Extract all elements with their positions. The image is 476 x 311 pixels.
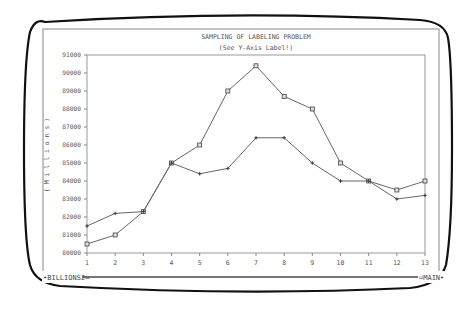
x-tick-label: 10 <box>337 259 345 267</box>
y-tick-label: 82000 <box>62 213 81 220</box>
y-tick-label: 83000 <box>62 195 81 202</box>
y-tick-label: 86000 <box>62 141 81 148</box>
y-axis-label: ( M i l l i o n s ) <box>43 118 51 192</box>
status-right-label: ═MAIN• <box>418 274 444 282</box>
x-tick-label: 4 <box>170 259 174 267</box>
square-marker <box>423 179 427 183</box>
y-tick-label: 91000 <box>62 51 81 58</box>
square-marker <box>226 89 230 93</box>
y-tick-label: 81000 <box>62 231 81 238</box>
square-marker <box>310 107 314 111</box>
x-tick-label: 7 <box>254 259 258 267</box>
x-tick-label: 6 <box>226 259 230 267</box>
series-line-2 <box>87 138 425 226</box>
monitor-bezel <box>24 15 452 291</box>
x-tick-label: 12 <box>393 259 401 267</box>
square-marker <box>113 233 117 237</box>
y-axis: 8000081000820008300084000850008600087000… <box>62 51 87 256</box>
square-marker <box>198 143 202 147</box>
square-marker <box>254 64 258 68</box>
plot-series <box>85 64 427 246</box>
chart-panel-frame <box>43 29 439 277</box>
square-marker <box>282 94 286 98</box>
y-tick-label: 88000 <box>62 105 81 112</box>
square-marker <box>85 242 89 246</box>
square-marker <box>395 188 399 192</box>
y-tick-label: 84000 <box>62 177 81 184</box>
cross-marker <box>113 212 117 216</box>
x-tick-label: 13 <box>421 259 429 267</box>
x-tick-label: 2 <box>113 259 117 267</box>
cross-marker <box>198 172 202 176</box>
cross-marker <box>85 224 89 228</box>
x-axis: 12345678910111213 <box>85 253 429 267</box>
y-tick-label: 85000 <box>62 159 81 166</box>
status-left-label: •BILLIONS2═ <box>43 274 90 282</box>
y-tick-label: 89000 <box>62 87 81 94</box>
x-tick-label: 3 <box>141 259 145 267</box>
x-tick-label: 9 <box>310 259 314 267</box>
x-tick-label: 11 <box>365 259 373 267</box>
y-tick-label: 87000 <box>62 123 81 130</box>
series-line-1 <box>87 66 425 244</box>
plot-area <box>87 55 425 253</box>
chart-subtitle: (See Y-Axis Label!) <box>219 44 293 52</box>
x-tick-label: 1 <box>85 259 89 267</box>
y-tick-label: 90000 <box>62 69 81 76</box>
y-tick-label: 80000 <box>62 249 81 256</box>
x-tick-label: 5 <box>198 259 202 267</box>
square-marker <box>339 161 343 165</box>
chart-title: SAMPLING OF LABELING PROBLEM <box>201 33 311 41</box>
x-tick-label: 8 <box>282 259 286 267</box>
cross-marker <box>423 194 427 198</box>
chart-window: •BILLIONS2═ ═MAIN• SAMPLING OF LABELING … <box>0 0 476 311</box>
